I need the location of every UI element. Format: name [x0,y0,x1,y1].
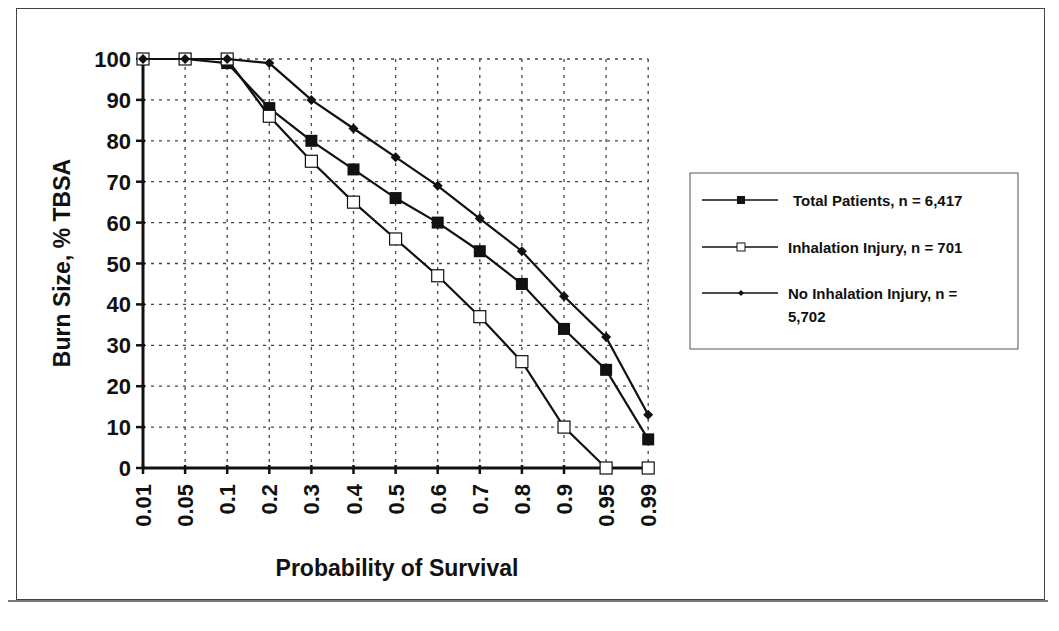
legend-label-no-inhalation-cont: 5,702 [788,308,826,325]
data-point [600,364,612,376]
data-point [516,356,528,368]
x-tick-label: 0.99 [636,484,661,527]
x-tick-label: 0.3 [299,484,324,515]
axes [136,59,648,474]
x-tick-label: 0.01 [131,484,156,527]
data-point [474,311,486,323]
filled-square-icon [737,196,745,204]
y-axis-label: Burn Size, % TBSA [49,159,75,367]
data-point [305,155,317,167]
x-tick-label: 0.9 [552,484,577,515]
y-tick-label: 70 [107,170,131,195]
data-point [432,270,444,282]
y-tick-label: 0 [119,456,131,481]
x-axis-ticks: 0.010.050.10.20.30.40.50.60.70.80.90.950… [131,483,661,527]
y-tick-label: 80 [107,129,131,154]
data-point [642,462,654,474]
open-square-icon [737,243,745,251]
x-tick-label: 0.1 [215,484,240,515]
y-tick-label: 30 [107,333,131,358]
x-tick-label: 0.2 [257,484,282,515]
y-tick-label: 10 [107,415,131,440]
legend-label-no-inhalation: No Inhalation Injury, n = [788,285,958,302]
line-chart: 0102030405060708090100 0.010.050.10.20.3… [0,0,1059,631]
y-axis-ticks: 0102030405060708090100 [94,47,131,481]
data-point [643,410,653,420]
data-point [558,421,570,433]
y-tick-label: 50 [107,252,131,277]
y-tick-label: 90 [107,88,131,113]
x-tick-label: 0.95 [594,484,619,527]
data-point [432,217,444,229]
data-point [263,110,275,122]
data-point [558,323,570,335]
x-tick-label: 0.5 [384,484,409,515]
data-point [474,245,486,257]
y-tick-label: 100 [94,47,131,72]
x-tick-label: 0.4 [342,483,367,514]
data-point [642,433,654,445]
x-tick-label: 0.8 [510,484,535,515]
data-point [390,192,402,204]
x-tick-label: 0.05 [173,484,198,527]
data-point [348,196,360,208]
legend-label-inhalation: Inhalation Injury, n = 701 [788,239,962,256]
x-tick-label: 0.7 [468,484,493,515]
y-tick-label: 60 [107,211,131,236]
x-tick-label: 0.6 [426,484,451,515]
x-axis-label: Probability of Survival [276,555,519,581]
data-point [390,233,402,245]
y-tick-label: 20 [107,374,131,399]
data-point [348,163,360,175]
data-point [516,278,528,290]
data-point [305,135,317,147]
legend-label-total: Total Patients, n = 6,417 [793,192,962,209]
y-tick-label: 40 [107,292,131,317]
gridlines [143,59,648,468]
legend: Total Patients, n = 6,417 Inhalation Inj… [690,173,1018,349]
data-point [600,462,612,474]
